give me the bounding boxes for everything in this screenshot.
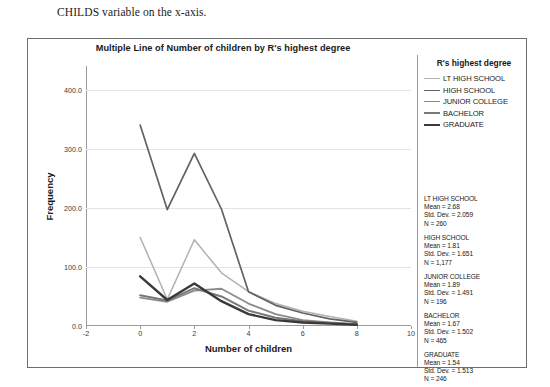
x-tick-mark (357, 326, 358, 329)
statistics-std-dev: Std. Dev. = 1.491 (424, 289, 528, 297)
x-tick-mark (249, 326, 250, 329)
x-tick-label: 6 (301, 329, 305, 338)
x-tick-label: -2 (83, 329, 89, 338)
statistics-std-dev: Std. Dev. = 2.059 (424, 211, 528, 219)
statistics-std-dev: Std. Dev. = 1.513 (424, 367, 528, 375)
legend-item[interactable]: JUNIOR COLLEGE (424, 97, 524, 107)
x-tick-mark (194, 326, 195, 329)
statistics-group-name: HIGH SCHOOL (424, 234, 528, 242)
x-tick-label: 0 (138, 329, 142, 338)
x-tick-label: 10 (407, 329, 415, 338)
statistics-block: LT HIGH SCHOOLMean = 2.68Std. Dev. = 2.0… (424, 195, 528, 228)
statistics-n: N = 196 (424, 298, 528, 306)
x-tick-mark (411, 326, 412, 329)
statistics-group-name: GRADUATE (424, 351, 528, 359)
legend-item-label: HIGH SCHOOL (443, 86, 495, 95)
series-line (140, 125, 357, 322)
y-axis-title-label: Frequency (44, 172, 55, 220)
series-line (140, 288, 357, 324)
x-tick-label: 2 (192, 329, 196, 338)
statistics-mean: Mean = 1.54 (424, 359, 528, 367)
series-line (140, 289, 357, 324)
y-tick-label: 400.0 (64, 85, 82, 94)
x-tick-label: 4 (247, 329, 251, 338)
statistics-std-dev: Std. Dev. = 1.502 (424, 328, 528, 336)
legend-item-label: GRADUATE (443, 120, 484, 129)
legend-item[interactable]: BACHELOR (424, 108, 524, 118)
legend-swatch-icon (424, 90, 440, 91)
x-tick-mark (86, 326, 87, 329)
y-tick-label: 300.0 (64, 144, 82, 153)
legend-title: R's highest degree (424, 59, 524, 69)
legend-swatch-icon (424, 124, 440, 126)
legend-item[interactable]: HIGH SCHOOL (424, 85, 524, 95)
statistics-mean: Mean = 1.89 (424, 281, 528, 289)
y-tick-label: 200.0 (64, 203, 82, 212)
statistics-mean: Mean = 1.67 (424, 320, 528, 328)
statistics-mean: Mean = 1.81 (424, 242, 528, 250)
statistics-n: N = 1,177 (424, 259, 528, 267)
statistics-n: N = 246 (424, 375, 528, 383)
statistics-std-dev: Std. Dev. = 1.651 (424, 250, 528, 258)
statistics-group-name: BACHELOR (424, 312, 528, 320)
statistics-mean: Mean = 2.68 (424, 203, 528, 211)
legend-item-label: LT HIGH SCHOOL (443, 74, 505, 83)
x-tick-mark (140, 326, 141, 329)
chart-title: Multiple Line of Number of children by R… (28, 43, 418, 53)
figure-caption: CHILDS variable on the x-axis. (57, 6, 207, 18)
legend-swatch-icon (424, 78, 440, 79)
x-axis-title: Number of children (86, 343, 411, 354)
y-axis-title: Frequency (42, 66, 56, 326)
legend: R's highest degree LT HIGH SCHOOLHIGH SC… (424, 59, 524, 131)
plot-area: 0.0100.0200.0300.0400.0-20246810 (86, 66, 411, 326)
statistics-panel: LT HIGH SCHOOLMean = 2.68Std. Dev. = 2.0… (424, 195, 528, 387)
statistics-block: JUNIOR COLLEGEMean = 1.89Std. Dev. = 1.4… (424, 273, 528, 306)
statistics-n: N = 260 (424, 220, 528, 228)
statistics-group-name: LT HIGH SCHOOL (424, 195, 528, 203)
legend-item[interactable]: GRADUATE (424, 120, 524, 130)
x-tick-label: 8 (355, 329, 359, 338)
chart-figure-frame: Multiple Line of Number of children by R… (27, 38, 527, 368)
x-tick-mark (303, 326, 304, 329)
legend-swatch-icon (424, 101, 440, 102)
statistics-group-name: JUNIOR COLLEGE (424, 273, 528, 281)
y-tick-label: 100.0 (64, 262, 82, 271)
y-tick-label: 0.0 (72, 322, 82, 331)
legend-rows: LT HIGH SCHOOLHIGH SCHOOLJUNIOR COLLEGEB… (424, 74, 524, 130)
legend-item[interactable]: LT HIGH SCHOOL (424, 74, 524, 84)
legend-divider (417, 55, 418, 367)
statistics-block: GRADUATEMean = 1.54Std. Dev. = 1.513N = … (424, 351, 528, 384)
series-lines (86, 66, 411, 326)
statistics-block: BACHELORMean = 1.67Std. Dev. = 1.502N = … (424, 312, 528, 345)
legend-swatch-icon (424, 112, 440, 114)
legend-item-label: JUNIOR COLLEGE (443, 97, 508, 106)
legend-item-label: BACHELOR (443, 109, 484, 118)
statistics-n: N = 465 (424, 337, 528, 345)
series-line (140, 237, 357, 321)
statistics-block: HIGH SCHOOLMean = 1.81Std. Dev. = 1.651N… (424, 234, 528, 267)
